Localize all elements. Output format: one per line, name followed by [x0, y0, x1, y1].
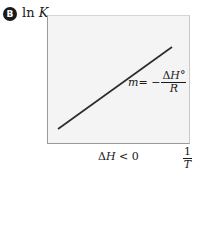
slope-fraction: ΔH° R: [161, 70, 186, 95]
slope-annotation: m = − ΔH° R: [128, 70, 186, 95]
enthalpy-condition: ΔH < 0: [98, 150, 139, 163]
x-axis-label: 1 T: [183, 146, 192, 171]
